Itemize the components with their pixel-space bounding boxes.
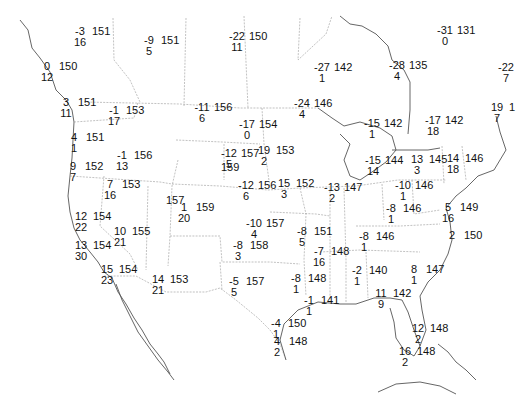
station-dewpoint: 23 [99, 275, 115, 286]
station-plot: -170154 [239, 119, 255, 141]
station-dewpoint: 1 [301, 306, 317, 317]
station-plot: 120159 [176, 202, 192, 224]
station-plot: -81146 [383, 203, 399, 225]
station-dewpoint: 2 [256, 156, 272, 167]
station-plot: 311151 [58, 97, 74, 119]
station-plot: -1718142 [425, 115, 441, 137]
station-pressure: 146 [465, 153, 483, 164]
station-dewpoint: 4 [389, 71, 405, 82]
station-dewpoint: 1 [349, 276, 365, 287]
station-dewpoint: 1 [66, 143, 82, 154]
station-pressure: 1 [509, 102, 515, 113]
station-plot: -104157 [246, 218, 262, 240]
station-pressure: 148 [308, 273, 326, 284]
station-pressure: 154 [93, 211, 111, 222]
station-pressure: 135 [409, 60, 427, 71]
station-plot: -271142 [314, 62, 330, 84]
station-plot: 1523154 [99, 264, 115, 286]
station-pressure: 152 [296, 178, 314, 189]
station-plot: 012150 [39, 61, 55, 83]
station-plot: 122148 [410, 323, 426, 345]
station-dewpoint: 18 [425, 126, 441, 137]
station-dewpoint: 2 [397, 357, 413, 368]
station-dewpoint: 16 [440, 213, 456, 224]
cuba [378, 382, 456, 394]
station-pressure: 146 [403, 203, 421, 214]
station-pressure: 154 [119, 264, 137, 275]
station-plot: -101146 [395, 180, 411, 202]
station-dewpoint: 30 [73, 251, 89, 262]
station-pressure: 157 [266, 218, 284, 229]
station-plot: -716148 [311, 246, 327, 268]
station-plot: -55157 [226, 276, 242, 298]
station-pressure: 131 [457, 25, 475, 36]
station-pressure: 146 [415, 180, 433, 191]
station-plot: -2211150 [229, 31, 245, 53]
station-dewpoint: 9 [373, 299, 389, 310]
station-pressure: 153 [122, 179, 140, 190]
station-dewpoint: 5 [294, 237, 310, 248]
station-pressure: 146 [314, 98, 332, 109]
station-dewpoint: 7 [489, 113, 505, 124]
atlantic-coastline [420, 116, 506, 346]
station-dewpoint: 0 [437, 36, 453, 47]
station-dewpoint: 6 [194, 113, 210, 124]
station-plot: -11141 [301, 295, 317, 317]
station-pressure: 149 [460, 202, 478, 213]
station-plot: -310131 [437, 25, 453, 47]
station-plot: 1421153 [150, 274, 166, 296]
station-dewpoint: 3 [409, 165, 425, 176]
station-plot: 1222154 [73, 211, 89, 233]
station-dewpoint: 11 [229, 42, 245, 53]
station-pressure: 147 [426, 264, 444, 275]
station-dewpoint: 22 [73, 222, 89, 233]
station-temperature: 2 [444, 230, 460, 241]
station-dewpoint: 4 [294, 109, 310, 120]
station-pressure: 157 [246, 276, 264, 287]
station-pressure: 156 [214, 102, 232, 113]
station-dewpoint: 1 [395, 191, 411, 202]
station-plot: 2150 [444, 230, 460, 241]
station-plot: -151142 [364, 118, 380, 140]
station-plot: -117153 [106, 105, 122, 127]
station-pressure: 148 [289, 336, 307, 347]
station-pressure: 146 [376, 231, 394, 242]
station-plot: -83158 [230, 240, 246, 262]
station-plot: 81147 [406, 264, 422, 286]
station-pressure: 151 [86, 132, 104, 143]
station-dewpoint: 1 [356, 242, 372, 253]
station-plot: -113156 [114, 150, 130, 172]
station-dewpoint: 11 [58, 108, 74, 119]
station-plot: 1971 [489, 102, 505, 124]
station-dewpoint: 1 [314, 73, 330, 84]
station-pressure: 150 [249, 31, 267, 42]
station-pressure: 150 [288, 318, 306, 329]
station-pressure: 142 [384, 118, 402, 129]
station-pressure: 150 [464, 230, 482, 241]
station-pressure: 144 [385, 155, 403, 166]
station-plot: 1021155 [112, 226, 128, 248]
station-dewpoint: 20 [176, 213, 192, 224]
station-pressure: 156 [134, 150, 152, 161]
station-plot: 119142 [373, 288, 389, 310]
station-plot: 97152 [65, 161, 81, 183]
station-pressure: 159 [196, 202, 214, 213]
station-dewpoint: 13 [114, 161, 130, 172]
station-plot: -316151 [72, 26, 88, 48]
station-pressure: 151 [92, 26, 110, 37]
station-dewpoint: 2 [324, 193, 340, 204]
station-plot: 42148 [269, 336, 285, 358]
station-pressure: 148 [331, 246, 349, 257]
station-pressure: 153 [276, 145, 294, 156]
station-pressure: 153 [126, 105, 144, 116]
station-pressure: 141 [321, 295, 339, 306]
station-dewpoint: 0 [239, 130, 255, 141]
station-plot: -1514144 [365, 155, 381, 177]
station-dewpoint: 5 [141, 46, 157, 57]
station-dewpoint: 5 [226, 287, 242, 298]
station-plot: -227 [498, 62, 514, 84]
station-dewpoint: 21 [150, 285, 166, 296]
station-plot: -85151 [294, 226, 310, 248]
station-pressure: 148 [417, 346, 435, 357]
station-dewpoint: 21 [112, 237, 128, 248]
